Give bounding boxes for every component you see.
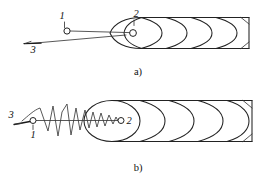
node-marker-1-a [64,28,70,34]
technical-figure: 1 2 3 a) [0,0,275,181]
inner-wire-straight-a [70,31,130,33]
coil-arc-a-1 [141,18,162,49]
panel-b: 3 1 2 b) [7,101,252,175]
coil-arc-b-3 [198,101,223,142]
coil-chamfer-a-bottom [241,42,249,49]
coil-chamfer-b-top [243,101,252,109]
callout-label-3-b: 3 [7,109,13,120]
node-marker-1-b [30,118,36,124]
panel-caption-b: b) [134,162,143,174]
node-marker-2-b [118,118,124,124]
coil-chamfer-a-top [241,18,249,25]
panel-a-coil-arcs [141,18,249,49]
node-marker-2-a [130,30,137,37]
callout-label-2-b: 2 [126,115,132,126]
callout-label-1-a: 1 [59,10,64,21]
callout-label-1-b: 1 [30,129,35,140]
callout-label-2-a: 2 [133,8,139,19]
coil-arc-b-1 [140,101,165,142]
leader-line-3-a [30,35,126,44]
coil-arc-a-4 [216,18,237,49]
coil-arc-a-2 [166,18,187,49]
coil-arc-b-2 [169,101,194,142]
coil-arc-a-3 [191,18,212,49]
panel-b-coil-arcs [140,101,252,142]
panel-a: 1 2 3 a) [24,8,249,78]
panel-a-tube-body [141,18,249,49]
coil-arc-b-4 [227,101,249,142]
panel-b-tube-body [112,101,252,142]
panel-caption-a: a) [134,66,143,78]
coil-chamfer-b-bottom [243,134,252,142]
callout-label-3-a: 3 [29,44,35,55]
figure-canvas: 1 2 3 a) [0,0,275,181]
